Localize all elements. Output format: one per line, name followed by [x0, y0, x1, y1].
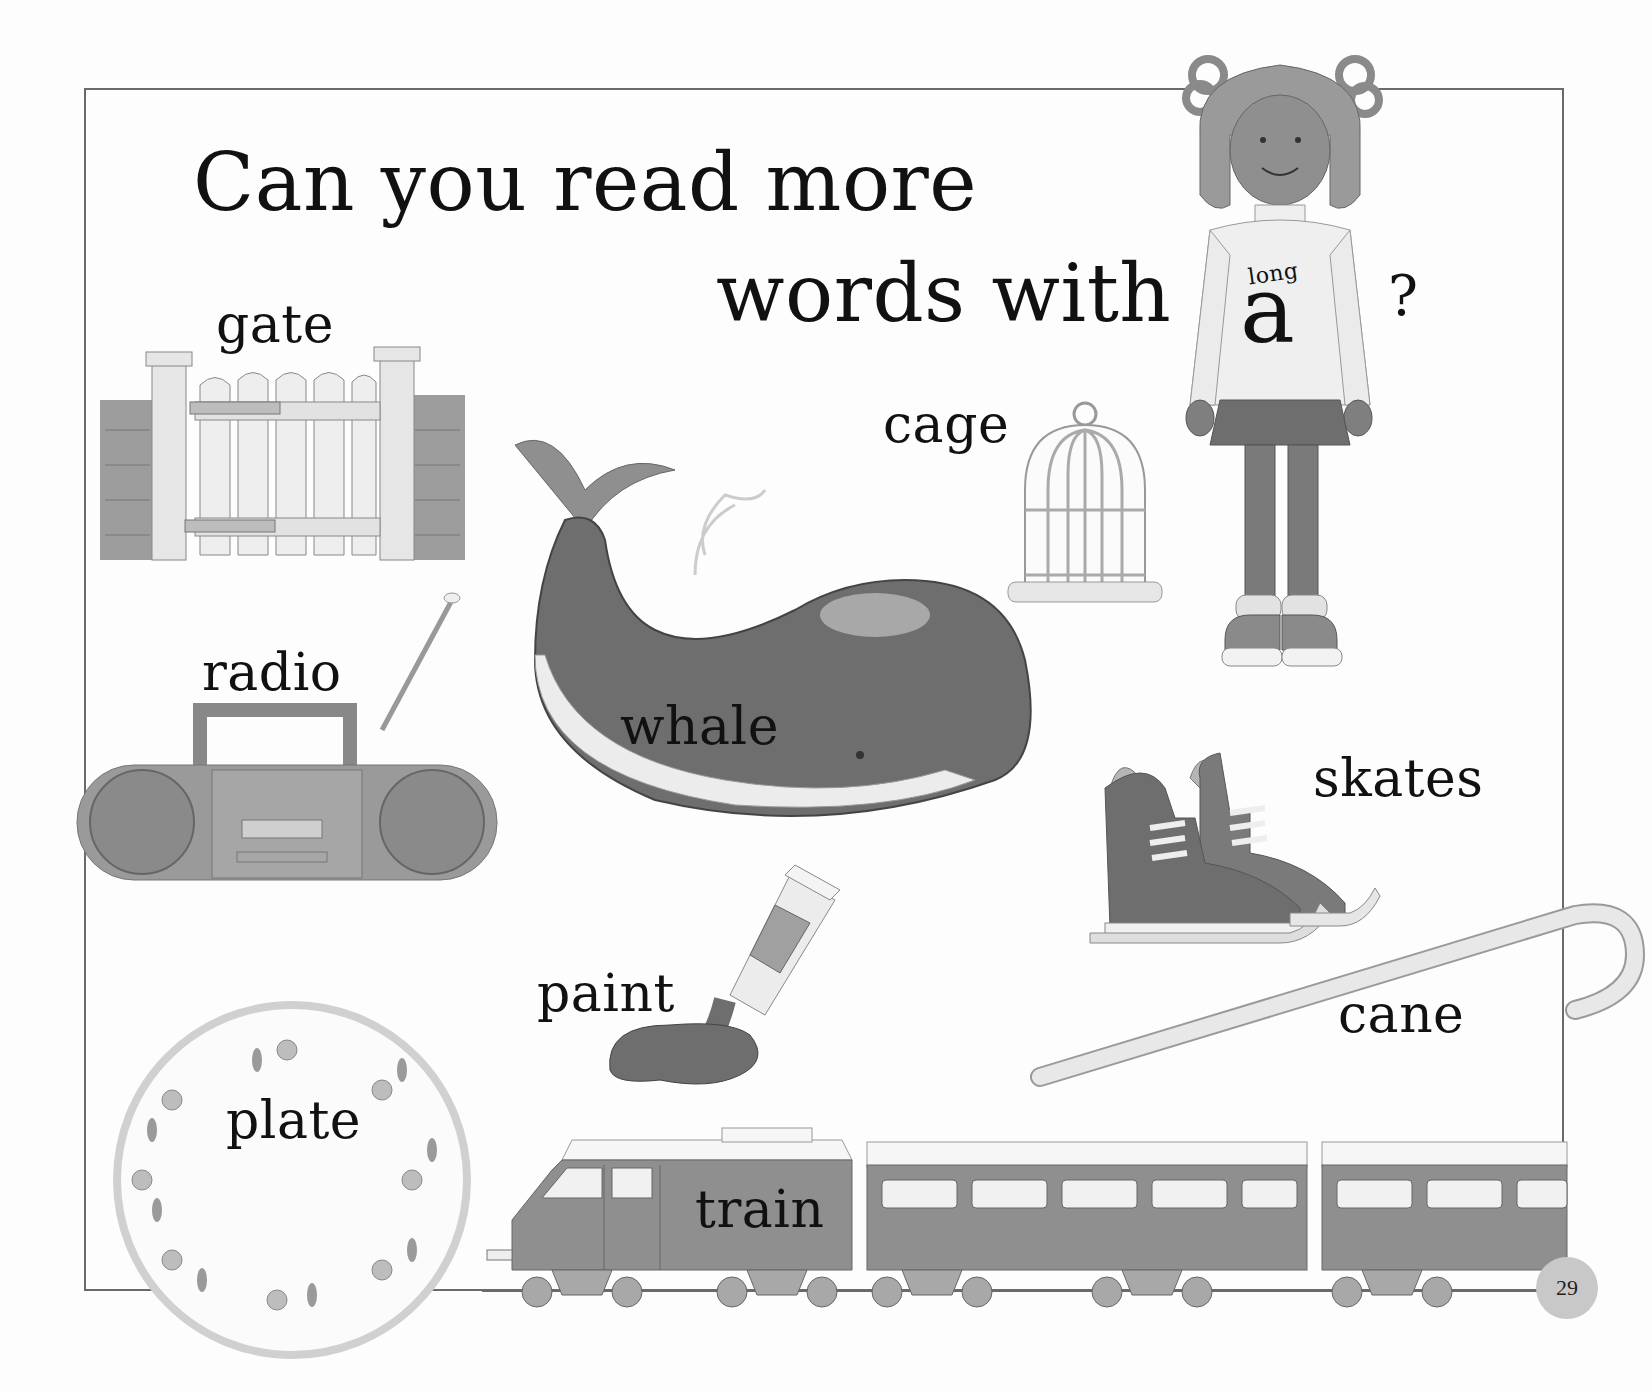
word-train: train: [695, 1183, 824, 1235]
book-page: gate Can you read more words with ?: [0, 0, 1652, 1392]
word-gate: gate: [216, 298, 334, 350]
radio-illustration: [72, 590, 502, 890]
page-title-line2: words with: [716, 254, 1171, 334]
whale-illustration: [505, 425, 1045, 845]
word-radio: radio: [202, 646, 342, 698]
page-number-badge: 29: [1536, 1257, 1598, 1319]
gate-illustration: [100, 350, 470, 570]
word-paint: paint: [537, 967, 675, 1019]
plate-illustration: [112, 1030, 472, 1310]
word-skates: skates: [1313, 752, 1484, 804]
page-number: 29: [1556, 1275, 1578, 1301]
word-cane: cane: [1338, 988, 1464, 1040]
girl-illustration: [1170, 40, 1420, 690]
train-illustration: [482, 1120, 1567, 1310]
word-whale: whale: [620, 700, 779, 752]
word-plate: plate: [226, 1094, 361, 1146]
page-title-line1: Can you read more: [193, 143, 977, 223]
sweater-long-a-letter: a: [1240, 265, 1295, 357]
